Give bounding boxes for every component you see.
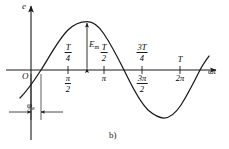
y-axis-label: e bbox=[22, 2, 26, 11]
denominator: 4 bbox=[65, 52, 72, 62]
figure-sinusoidal-emf: e ωt O Em φe T 4 T 2 3T 4 T π 2 π 3π 2 2… bbox=[0, 0, 229, 149]
x-axis-label: ωt bbox=[208, 68, 216, 76]
tick-label-T-over-4: T 4 bbox=[65, 43, 72, 62]
numerator: T bbox=[101, 43, 108, 52]
amplitude-label: Em bbox=[89, 40, 99, 49]
denominator: 4 bbox=[137, 52, 148, 62]
tick-label-3pi-over-2: 3π 2 bbox=[137, 74, 148, 93]
tick-label-3T-over-4: 3T 4 bbox=[137, 43, 148, 62]
tick-label-pi: π bbox=[102, 74, 106, 83]
numerator: π bbox=[65, 74, 71, 83]
numerator: 3π bbox=[137, 74, 148, 83]
origin-label: O bbox=[22, 72, 29, 81]
phase-label: φe bbox=[27, 101, 35, 110]
amplitude-subscript: m bbox=[95, 44, 100, 50]
waveform-plot-svg bbox=[0, 0, 229, 149]
tick-label-T-over-2: T 2 bbox=[101, 43, 108, 62]
denominator: 2 bbox=[65, 83, 71, 93]
tick-label-2pi: 2π bbox=[176, 74, 185, 83]
phase-subscript: e bbox=[32, 105, 35, 111]
tick-label-pi-over-2: π 2 bbox=[65, 74, 71, 93]
amplitude-symbol: E bbox=[89, 39, 95, 49]
denominator: 2 bbox=[137, 83, 148, 93]
numerator: T bbox=[65, 43, 72, 52]
figure-caption: b) bbox=[109, 131, 117, 140]
denominator: 2 bbox=[101, 52, 108, 62]
tick-label-T: T bbox=[178, 55, 183, 64]
numerator: 3T bbox=[137, 43, 148, 52]
